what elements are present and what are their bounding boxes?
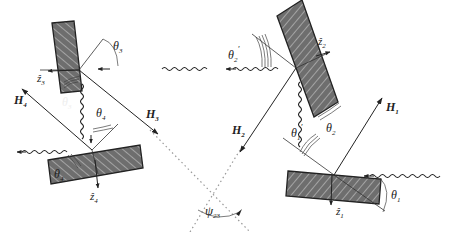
crystal-diffraction-diagram: ψ23 ẑ3 θ3 θ3 H3 H4 θ4 [0,0,454,232]
diffracted-wave-3 [81,84,84,139]
psi23-label: ψ23 [205,203,221,220]
H3-vector [79,70,158,134]
z1-label: ẑ1 [335,205,344,220]
crystal-1-group: H1 θ1′ ẑ1 θ1 [283,98,440,220]
incoming-wave-1 [370,175,440,178]
H1-label: H1 [385,100,399,116]
crystal-2-group: ẑ2 θ2′ H2 θ2 [226,0,341,152]
incoming-wave-3 [162,68,207,71]
H1-vector [334,98,382,175]
H2-vector [240,68,296,152]
theta1-label: θ1 [391,188,400,204]
H2-label: H2 [231,123,245,139]
H3-label: H3 [145,107,159,123]
theta2-label: θ2 [326,121,336,137]
z4-label: ẑ4 [89,190,98,205]
theta3-label: θ3 [113,39,123,55]
theta3-prime-label: θ3 [62,95,72,111]
theta4-label: θ4 [96,106,106,122]
theta2-prime-label: θ2′ [228,44,240,64]
z3-label: ẑ3 [36,72,45,87]
psi23-dotted-lines: ψ23 [150,130,250,232]
crystal-2 [277,0,338,117]
outgoing-wave-4 [22,151,67,154]
H4-label: H4 [13,93,27,109]
outgoing-wave-2 [233,68,278,71]
crystal-3-group: ẑ3 θ3 θ3 H3 [36,21,207,143]
